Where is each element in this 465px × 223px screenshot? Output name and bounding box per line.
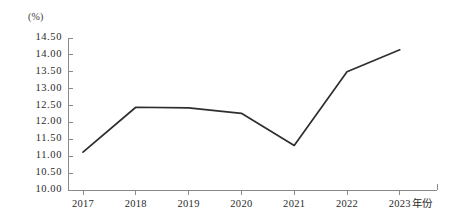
data-line xyxy=(83,50,400,152)
x-axis-tick-label: 2018 xyxy=(106,198,166,209)
chart-plot-area xyxy=(0,0,465,223)
y-axis-tick-label: 12.00 xyxy=(8,115,62,126)
x-axis-tick-label: 2021 xyxy=(264,198,324,209)
chart-axes xyxy=(68,38,437,195)
y-axis-tick-label: 10.50 xyxy=(8,166,62,177)
x-axis-tick-label: 2017 xyxy=(53,198,113,209)
x-axis-tick-label: 2022 xyxy=(317,198,377,209)
y-axis-tick-label: 11.50 xyxy=(8,132,62,143)
line-chart: (%) 14.5014.0013.5013.0012.5012.0011.501… xyxy=(0,0,465,223)
y-axis-tick-label: 13.00 xyxy=(8,82,62,93)
y-axis-tick-label: 11.00 xyxy=(8,149,62,160)
x-axis-tick-label: 2020 xyxy=(211,198,271,209)
x-axis-tick-label: 2019 xyxy=(159,198,219,209)
x-axis-title: 年份 xyxy=(412,195,432,210)
y-axis-tick-label: 10.00 xyxy=(8,183,62,194)
y-axis-tick-label: 14.00 xyxy=(8,48,62,59)
y-axis-tick-label: 12.50 xyxy=(8,99,62,110)
chart-series xyxy=(83,50,400,152)
y-axis-tick-label: 14.50 xyxy=(8,31,62,42)
y-axis-tick-label: 13.50 xyxy=(8,65,62,76)
